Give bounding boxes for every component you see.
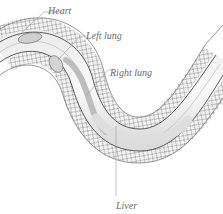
liver-label: Liver [116,201,137,211]
heart-label: Heart [48,6,71,16]
right-lung-label: Right lung [110,68,152,78]
left-lung-label: Left lung [86,31,122,41]
snake-anatomy-diagram: Heart Left lung Right lung Liver [0,0,223,214]
